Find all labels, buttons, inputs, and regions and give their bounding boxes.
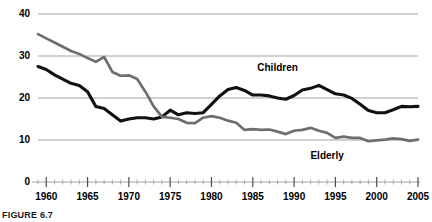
x-tick-label-1990: 1990	[283, 191, 306, 202]
x-tick-label-2000: 2000	[366, 191, 389, 202]
x-tick-label-1965: 1965	[76, 191, 99, 202]
y-tick-label-30: 30	[19, 50, 31, 61]
x-tick-label-2005: 2005	[407, 191, 430, 202]
annotation-children: Children	[257, 62, 298, 73]
y-tick-label-10: 10	[19, 134, 31, 145]
series-line-elderly	[38, 34, 418, 141]
data-series	[38, 34, 418, 141]
series-line-children	[38, 67, 418, 122]
y-tick-label-0: 0	[24, 176, 30, 187]
figure-container: 010203040 196019651970197519801985199019…	[0, 0, 432, 222]
y-axis-tick-labels: 010203040	[19, 8, 31, 187]
x-tick-label-1960: 1960	[35, 191, 58, 202]
x-tick-label-1970: 1970	[118, 191, 141, 202]
x-tick-label-1985: 1985	[242, 191, 265, 202]
x-axis-tick-labels: 1960196519701975198019851990199520002005	[35, 191, 429, 202]
x-tick-label-1980: 1980	[200, 191, 223, 202]
x-axis	[32, 177, 420, 187]
y-tick-label-40: 40	[19, 8, 31, 19]
series-annotations: ChildrenElderly	[257, 62, 344, 161]
line-chart: 010203040 196019651970197519801985199019…	[0, 0, 432, 222]
annotation-elderly: Elderly	[310, 150, 344, 161]
figure-caption: FIGURE 6.7	[2, 210, 53, 222]
x-tick-label-1995: 1995	[324, 191, 347, 202]
y-tick-label-20: 20	[19, 92, 31, 103]
x-tick-label-1975: 1975	[159, 191, 182, 202]
